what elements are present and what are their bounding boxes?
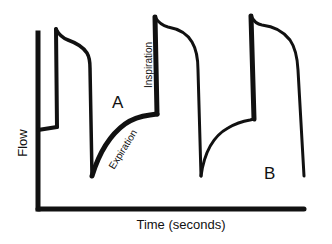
inspiration-edge-1 xyxy=(56,29,57,127)
inspiration-edge-2 xyxy=(155,17,157,114)
cycle-1-inspiration-curve xyxy=(56,29,92,176)
flow-waveform xyxy=(38,16,304,176)
expiration-curve-b xyxy=(201,119,254,176)
y-axis-label: Flow xyxy=(15,129,30,157)
cycle-3-inspiration-curve xyxy=(251,16,304,176)
cycle-2-inspiration-curve xyxy=(155,17,201,176)
inspiration-edge-3 xyxy=(251,16,254,119)
initial-baseline xyxy=(38,127,57,130)
label-b: B xyxy=(264,164,275,183)
x-axis-label: Time (seconds) xyxy=(136,217,225,232)
label-a: A xyxy=(112,93,124,112)
label-inspiration: Inspiration xyxy=(143,42,154,88)
flow-time-diagram: A B Expiration Inspiration Flow Time (se… xyxy=(0,0,332,244)
